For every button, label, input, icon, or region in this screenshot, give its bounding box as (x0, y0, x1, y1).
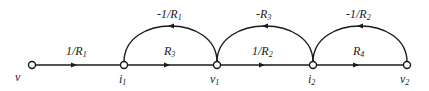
node-v1 (214, 62, 221, 69)
arrow-right-icon (164, 63, 170, 68)
gain-label-v2-i2: -1/R2 (346, 7, 371, 22)
node-label-v2: v2 (400, 72, 409, 87)
gain-label-i2-v2: R4 (352, 44, 364, 59)
arrow-left-icon (357, 24, 363, 29)
gain-label-i1-v1: R3 (163, 44, 175, 59)
gain-label-i2-v1: -R3 (256, 7, 271, 22)
node-v (29, 62, 36, 69)
gain-label-v1-i1: -1/R1 (157, 7, 182, 22)
gain-label-v-i1: 1/R1 (66, 44, 87, 59)
node-label-v: v (15, 70, 21, 84)
node-label-i2: i2 (308, 72, 315, 87)
node-label-v1: v1 (210, 72, 219, 87)
arrow-left-icon (262, 24, 268, 29)
arrow-left-icon (168, 24, 174, 29)
gain-label-v1-i2: 1/R2 (252, 44, 273, 59)
node-i1 (121, 62, 128, 69)
arrow-right-icon (353, 63, 359, 68)
node-label-i1: i1 (119, 72, 126, 87)
arrow-right-icon (71, 63, 77, 68)
node-v2 (404, 62, 411, 69)
arrow-right-icon (259, 63, 265, 68)
signal-flow-graph: v i1 v1 i2 v2 1/R1 R3 1/R2 R4 -1/R1 -R3 … (0, 0, 429, 91)
node-i2 (310, 62, 317, 69)
